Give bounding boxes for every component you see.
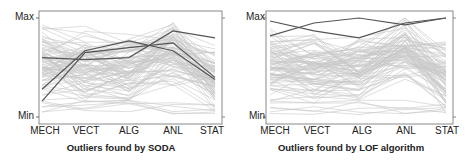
x-label-alg: ALG: [119, 125, 139, 136]
lof-parallel-plot: [233, 0, 467, 161]
x-label-alg: ALG: [352, 125, 372, 136]
x-label-vect: VECT: [73, 125, 100, 136]
background-lines: [270, 18, 446, 115]
soda-panel: Max Min MECH VECT ALG ANL STAT Outliers …: [0, 0, 233, 161]
lof-panel: Max Min MECH VECT ALG ANL STAT Outliers …: [233, 0, 467, 161]
x-label-stat: STAT: [200, 125, 224, 136]
x-label-stat: STAT: [435, 125, 459, 136]
x-label-mech: MECH: [260, 125, 289, 136]
x-label-anl: ANL: [396, 125, 415, 136]
soda-caption: Outliers found by SODA: [67, 142, 176, 153]
x-label-anl: ANL: [163, 125, 182, 136]
y-min-label: Min: [249, 110, 265, 121]
x-label-vect: VECT: [304, 125, 331, 136]
y-max-label: Max: [246, 11, 265, 22]
y-min-label: Min: [18, 110, 34, 121]
x-label-mech: MECH: [30, 125, 59, 136]
y-max-label: Max: [15, 11, 34, 22]
background-lines: [42, 22, 215, 114]
lof-caption: Outliers found by LOF algorithm: [278, 142, 424, 153]
soda-parallel-plot: [0, 0, 233, 161]
